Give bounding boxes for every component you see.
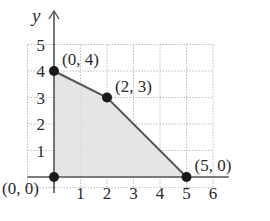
feasible-region-chart: 12345612345 (0, 0)(0, 4)(2, 3)(5, 0) y (0, 0, 270, 221)
x-tick-label: 6 (209, 184, 218, 203)
y-tick-label: 5 (37, 36, 46, 55)
point-label: (5, 0) (195, 156, 232, 175)
y-tick-label: 1 (37, 142, 46, 161)
vertex-point (182, 172, 192, 182)
vertex-point (49, 172, 59, 182)
point-label: (0, 4) (62, 50, 99, 69)
y-tick-label: 2 (37, 115, 46, 134)
y-tick-label: 4 (37, 62, 46, 81)
x-tick-label: 3 (129, 184, 138, 203)
point-label: (2, 3) (115, 77, 152, 96)
x-tick-label: 4 (156, 184, 165, 203)
y-axis-label: y (30, 5, 41, 26)
x-tick-label: 1 (76, 184, 85, 203)
vertex-point (102, 93, 112, 103)
y-tick-label: 3 (37, 89, 46, 108)
point-label: (0, 0) (2, 179, 39, 198)
x-tick-label: 2 (103, 184, 112, 203)
x-tick-label: 5 (182, 184, 191, 203)
vertex-point (49, 66, 59, 76)
